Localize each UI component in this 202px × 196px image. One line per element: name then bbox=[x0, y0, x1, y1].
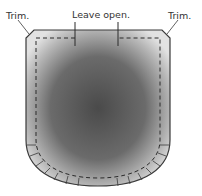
leader-trim-left bbox=[18, 20, 29, 34]
pocket-shape bbox=[26, 30, 170, 186]
label-trim-left: Trim. bbox=[5, 10, 29, 21]
label-leave-open: Leave open. bbox=[72, 9, 130, 20]
leader-trim-right bbox=[167, 20, 178, 34]
label-trim-right: Trim. bbox=[167, 10, 191, 21]
pattern-diagram: Trim. Leave open. Trim. bbox=[0, 0, 202, 196]
